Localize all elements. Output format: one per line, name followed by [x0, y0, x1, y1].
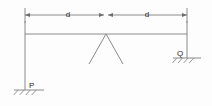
arrowhead-right-outer — [182, 13, 187, 17]
hatch-stroke — [32, 90, 37, 95]
support-p: P — [14, 81, 44, 95]
hatch-stroke — [172, 58, 177, 63]
structure — [25, 21, 187, 90]
dimension-left-span: d — [25, 10, 104, 19]
hatch-stroke — [26, 90, 31, 95]
arrowhead-left-inner — [99, 13, 104, 17]
hatch-stroke — [184, 58, 189, 63]
hatch-stroke — [14, 90, 19, 95]
extension-lines — [25, 8, 187, 23]
brace-member-right — [106, 34, 123, 64]
dimension-label-right: d — [145, 10, 149, 19]
hatch-stroke — [178, 58, 183, 63]
ground-hatching-q — [172, 58, 193, 63]
arrowhead-left-outer — [25, 13, 30, 17]
arrowhead-right-inner — [108, 13, 113, 17]
support-label-p: P — [29, 81, 34, 90]
dimension-right-span: d — [108, 10, 187, 19]
hatch-stroke — [189, 58, 194, 63]
diagram-canvas: d d P Q — [0, 0, 212, 106]
dimension-label-left: d — [66, 10, 70, 19]
brace-member-left — [89, 34, 106, 64]
ground-hatching-p — [14, 90, 37, 95]
beam-diagram: d d P Q — [0, 0, 212, 106]
hatch-stroke — [20, 90, 25, 95]
support-label-q: Q — [177, 49, 183, 58]
